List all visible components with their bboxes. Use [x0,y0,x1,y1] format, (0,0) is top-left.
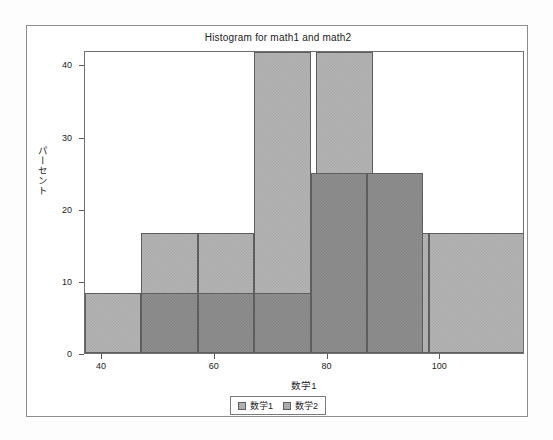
histogram-bar [141,293,197,353]
y-tick-label: 30 [42,133,72,143]
histogram-bar [85,293,141,353]
legend-box: 数学1数学2 [230,396,326,415]
chart-legend: 数学1数学2 [27,396,529,415]
x-tick-mark [101,354,102,359]
y-tick-label: 0 [42,349,72,359]
bars-container [85,52,523,353]
histogram-bar [429,233,524,353]
legend-entry[interactable]: 数学1 [238,399,273,412]
figure-canvas: Histogram for math1 and math2 406080100 … [0,0,553,440]
y-tick-mark [79,210,84,211]
x-tick-label: 100 [432,361,447,371]
legend-label: 数学2 [295,399,318,412]
y-tick-mark [79,138,84,139]
plot-area [84,51,524,354]
y-tick-mark [79,354,84,355]
y-tick-label: 40 [42,60,72,70]
y-tick-label: 10 [42,277,72,287]
legend-entry[interactable]: 数学2 [283,399,318,412]
histogram-bar [311,173,367,353]
histogram-bar [198,293,254,353]
legend-swatch-icon [238,402,246,410]
histogram-bar [254,293,310,353]
x-tick-mark [327,354,328,359]
histogram-bar [367,173,423,353]
x-tick-label: 40 [96,361,106,371]
x-tick-mark [439,354,440,359]
x-tick-mark [214,354,215,359]
y-tick-label: 20 [42,205,72,215]
legend-swatch-icon [283,402,291,410]
legend-label: 数学1 [250,399,273,412]
x-axis-label: 数学1 [84,378,524,392]
x-tick-label: 80 [322,361,332,371]
chart-title: Histogram for math1 and math2 [27,32,529,43]
chart-outer-frame: Histogram for math1 and math2 406080100 … [26,25,528,417]
x-tick-label: 60 [209,361,219,371]
y-tick-mark [79,65,84,66]
y-tick-mark [79,282,84,283]
y-axis-label: パーセント [35,146,49,196]
